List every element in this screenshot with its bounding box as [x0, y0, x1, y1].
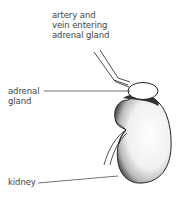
kidney-shape — [115, 96, 171, 183]
artery-vein-lines — [94, 50, 130, 87]
kidney-illustration — [0, 0, 188, 204]
leader-kidney — [38, 176, 118, 183]
